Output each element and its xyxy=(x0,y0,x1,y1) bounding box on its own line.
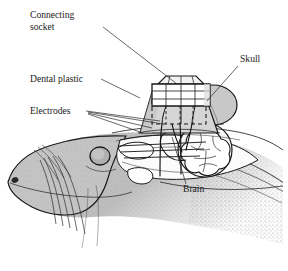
leader-electrodes-2 xyxy=(88,114,143,133)
anatomical-figure: ConnectingsocketDental plasticElectrodes… xyxy=(0,0,288,271)
leader-connecting-socket xyxy=(103,27,177,84)
label-brain: Brain xyxy=(183,183,205,194)
label-electrodes-line-0: Electrodes xyxy=(30,105,71,116)
connecting-socket xyxy=(152,76,210,106)
label-electrodes: Electrodes xyxy=(30,105,71,116)
label-brain-line-0: Brain xyxy=(183,183,205,194)
figure-canvas: ConnectingsocketDental plasticElectrodes… xyxy=(0,0,288,271)
label-skull-line-0: Skull xyxy=(240,53,261,64)
label-connecting-socket-line-1: socket xyxy=(30,21,55,32)
label-dental-plastic-line-0: Dental plastic xyxy=(30,73,83,84)
leader-dental-plastic xyxy=(101,79,140,98)
label-connecting-socket: Connectingsocket xyxy=(30,9,74,32)
label-dental-plastic: Dental plastic xyxy=(30,73,83,84)
label-connecting-socket-line-0: Connecting xyxy=(30,9,74,20)
label-skull: Skull xyxy=(240,53,261,64)
